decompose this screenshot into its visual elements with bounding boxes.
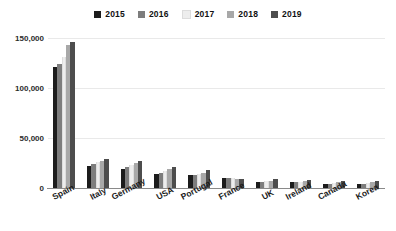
legend-item-2015[interactable]: 2015 xyxy=(94,10,125,19)
y-axis-tick-label: 100,000 xyxy=(0,84,44,93)
x-label-slot: Spain xyxy=(47,189,81,231)
chart-legend: 20152016201720182019 xyxy=(0,10,396,19)
y-axis-tick-label: 150,000 xyxy=(0,34,44,43)
legend-label: 2017 xyxy=(195,10,215,19)
x-label-slot: Ireland xyxy=(284,189,318,231)
legend-label: 2016 xyxy=(149,10,169,19)
legend-item-2019[interactable]: 2019 xyxy=(271,10,302,19)
legend-label: 2018 xyxy=(238,10,258,19)
legend-item-2016[interactable]: 2016 xyxy=(138,10,169,19)
bar-group-spain xyxy=(47,38,81,188)
x-label-slot: UK xyxy=(250,189,284,231)
legend-label: 2019 xyxy=(282,10,302,19)
bar-group-portugal xyxy=(182,38,216,188)
bar-group-usa xyxy=(148,38,182,188)
x-axis-tick-label-uk: UK xyxy=(260,187,276,202)
x-label-slot: Canada xyxy=(317,189,351,231)
x-label-slot: Italy xyxy=(81,189,115,231)
y-axis-tick-labels: 050,000100,000150,000 xyxy=(0,0,44,231)
bar-italy-2019 xyxy=(104,159,108,188)
legend-swatch-icon xyxy=(138,11,145,18)
y-axis-tick-label: 0 xyxy=(0,184,44,193)
x-label-slot: Korea xyxy=(351,189,385,231)
legend-label: 2015 xyxy=(105,10,125,19)
bar-group-ireland xyxy=(284,38,318,188)
x-label-slot: Germany xyxy=(115,189,149,231)
y-axis-tick-label: 50,000 xyxy=(0,134,44,143)
bar-spain-2019 xyxy=(70,42,74,188)
x-label-slot: USA xyxy=(148,189,182,231)
x-label-slot: France xyxy=(216,189,250,231)
legend-swatch-icon xyxy=(94,11,101,18)
bar-group-germany xyxy=(115,38,149,188)
bar-clusters xyxy=(47,38,385,188)
bar-group-uk xyxy=(250,38,284,188)
x-axis-tick-labels: SpainItalyGermanyUSAPortugalFranceUKIrel… xyxy=(47,189,385,231)
legend-swatch-icon xyxy=(182,10,191,19)
bar-group-korea xyxy=(351,38,385,188)
bar-group-canada xyxy=(317,38,351,188)
legend-item-2017[interactable]: 2017 xyxy=(182,10,215,19)
legend-item-2018[interactable]: 2018 xyxy=(227,10,258,19)
bar-group-france xyxy=(216,38,250,188)
bar-usa-2019 xyxy=(172,167,176,188)
bar-group-italy xyxy=(81,38,115,188)
bar-uk-2019 xyxy=(273,179,277,188)
x-label-slot: Portugal xyxy=(182,189,216,231)
bar-chart: 20152016201720182019 050,000100,000150,0… xyxy=(0,0,396,231)
legend-swatch-icon xyxy=(227,11,234,18)
legend-swatch-icon xyxy=(271,11,278,18)
